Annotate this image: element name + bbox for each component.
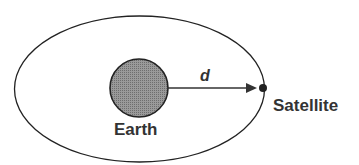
orbit-diagram: [0, 0, 359, 165]
arrow-head-icon: [246, 83, 257, 93]
satellite-dot: [259, 84, 267, 92]
distance-label: d: [200, 67, 210, 85]
earth-label: Earth: [114, 120, 157, 140]
satellite-label: Satellite: [273, 96, 338, 116]
earth-circle: [110, 59, 168, 117]
